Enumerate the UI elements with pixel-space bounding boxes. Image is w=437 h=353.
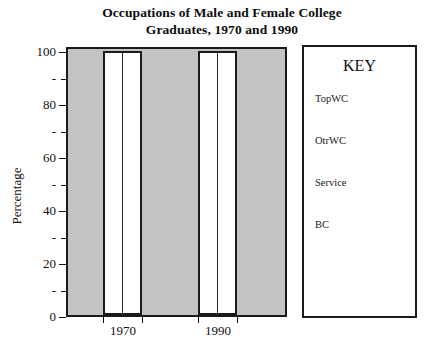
- bar-1970: [103, 51, 142, 315]
- y-axis-label-100: 100: [26, 45, 56, 58]
- y-axis-label-40: 40: [26, 204, 56, 217]
- y-tick-80: [59, 105, 66, 106]
- y-axis-label-80: 80: [26, 98, 56, 111]
- y-axis-label-20: 20: [26, 257, 56, 270]
- y-axis-title-label: Percentage: [9, 141, 25, 251]
- bar-1990-divider: [217, 53, 218, 313]
- y-axis-label-30: -: [26, 231, 56, 244]
- x-axis-label-1990: 1990: [188, 324, 248, 338]
- legend-item-topwc: TopWC: [315, 93, 348, 105]
- y-tick-0: [59, 317, 66, 318]
- y-axis-label-10: -: [26, 284, 56, 297]
- x-tick-1970-b: [142, 317, 143, 323]
- y-axis-title: Percentage: [6, 140, 28, 250]
- y-axis-label-70: -: [26, 125, 56, 138]
- y-axis-label-50: -: [26, 178, 56, 191]
- chart-title-line-2: Graduates, 1970 and 1990: [52, 21, 392, 38]
- legend-item-otrwc: OtrWC: [315, 135, 346, 147]
- chart-title: Occupations of Male and Female College G…: [52, 4, 392, 38]
- legend-item-service: Service: [315, 177, 347, 189]
- plot-inner: [68, 49, 285, 315]
- chart-title-line-1: Occupations of Male and Female College: [52, 4, 392, 21]
- legend-item-bc: BC: [315, 219, 329, 231]
- x-tick-1970: [103, 317, 104, 323]
- y-tick-60: [59, 158, 66, 159]
- bar-1990: [198, 51, 237, 315]
- legend-title: KEY: [304, 57, 415, 75]
- x-tick-1990-b: [237, 317, 238, 323]
- x-axis-label-1970: 1970: [93, 324, 153, 338]
- x-tick-1990: [198, 317, 199, 323]
- y-tick-100: [59, 52, 66, 53]
- y-tick-40: [59, 211, 66, 212]
- chart-figure: Occupations of Male and Female College G…: [0, 0, 437, 353]
- legend-box: KEY TopWC OtrWC Service BC: [302, 45, 417, 318]
- y-axis-label-0: 0: [26, 310, 56, 323]
- plot-area: [66, 47, 287, 317]
- y-axis-label-60: 60: [26, 151, 56, 164]
- bar-1970-divider: [122, 53, 123, 313]
- y-axis-label-90: -: [26, 72, 56, 85]
- y-tick-20: [59, 264, 66, 265]
